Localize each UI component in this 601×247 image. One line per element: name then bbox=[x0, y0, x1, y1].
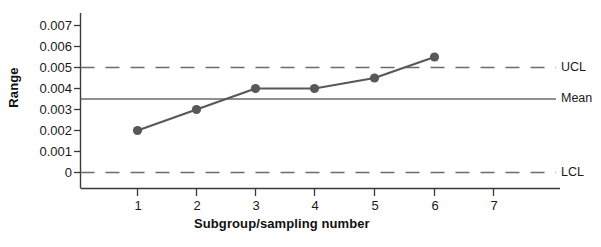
mean-label: Mean bbox=[561, 92, 592, 105]
x-tick-label-3: 3 bbox=[241, 199, 271, 212]
data-point-3 bbox=[251, 84, 260, 93]
x-tick-label-5: 5 bbox=[360, 199, 390, 212]
x-tick-label-4: 4 bbox=[300, 199, 330, 212]
x-tick-label-7: 7 bbox=[479, 199, 509, 212]
x-tick-label-1: 1 bbox=[123, 199, 153, 212]
data-point-4 bbox=[310, 84, 319, 93]
control-chart-figure: Range 0.007 0.006 0.005 0.004 0.003 0.00… bbox=[0, 0, 601, 247]
y-axis-ticks bbox=[74, 26, 81, 173]
data-point-6 bbox=[430, 52, 439, 61]
x-tick-label-2: 2 bbox=[182, 199, 212, 212]
range-series-markers bbox=[133, 52, 439, 135]
data-point-5 bbox=[370, 73, 379, 82]
x-axis-title: Subgroup/sampling number bbox=[194, 216, 370, 231]
data-point-2 bbox=[192, 105, 201, 114]
lcl-label: LCL bbox=[561, 166, 584, 179]
x-tick-label-6: 6 bbox=[420, 199, 450, 212]
data-point-1 bbox=[133, 126, 142, 135]
ucl-label: UCL bbox=[561, 61, 586, 74]
x-axis-ticks bbox=[138, 189, 494, 197]
